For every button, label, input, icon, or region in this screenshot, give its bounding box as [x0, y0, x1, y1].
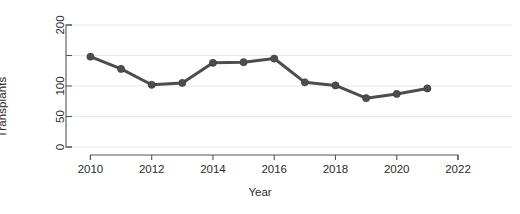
data-point: [332, 82, 339, 89]
data-point: [117, 65, 124, 72]
data-point: [424, 85, 431, 92]
y-axis: 050100200: [54, 15, 72, 150]
data-point: [179, 79, 186, 86]
data-point: [148, 81, 155, 88]
x-tick-label: 2022: [445, 163, 471, 175]
line-chart-plot: 050100200 2010201220142016201820202022: [0, 0, 520, 214]
x-tick-label: 2012: [139, 163, 165, 175]
x-tick-label: 2020: [384, 163, 410, 175]
data-point: [301, 79, 308, 86]
data-point: [209, 59, 216, 66]
x-axis: 2010201220142016201820202022: [78, 155, 471, 175]
data-point: [363, 95, 370, 102]
data-point: [271, 55, 278, 62]
x-tick-label: 2010: [78, 163, 104, 175]
x-tick-label: 2016: [261, 163, 287, 175]
data-point: [87, 53, 94, 60]
gridlines-group: [72, 25, 512, 147]
chart-container: Transplants Year 050100200 2010201220142…: [0, 0, 520, 214]
data-point: [393, 90, 400, 97]
y-tick-label: 100: [54, 76, 66, 95]
data-point: [240, 59, 247, 66]
y-tick-label: 200: [54, 15, 66, 34]
series-line-transplants: [90, 57, 427, 98]
y-tick-label: 0: [54, 144, 66, 150]
series-transplants: [87, 53, 431, 102]
x-tick-label: 2014: [200, 163, 226, 175]
y-tick-label: 50: [54, 110, 66, 123]
x-tick-label: 2018: [323, 163, 349, 175]
